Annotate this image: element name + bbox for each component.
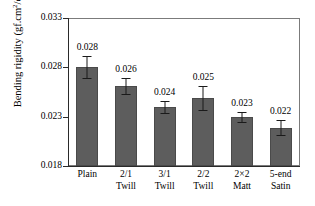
error-bar-line [203, 86, 204, 110]
bar-series: 0.0280.0260.0240.0250.0230.022 [68, 18, 300, 166]
bar-group: 0.025 [184, 18, 223, 166]
x-tick-label-line1: Plain [68, 169, 107, 181]
x-tick-label: 5-endSatin [261, 169, 300, 192]
x-tick-label-line2: Satin [261, 181, 300, 193]
x-tick-label: 3/1Twill [145, 169, 184, 192]
bar [115, 86, 137, 166]
x-tick-label-line2: Matt [223, 181, 262, 193]
error-bar-cap-top [83, 56, 92, 57]
y-tick-label: 0.018 [22, 161, 62, 171]
bar [76, 67, 98, 166]
bar-group: 0.024 [145, 18, 184, 166]
error-bar-line [164, 101, 165, 113]
bar-group: 0.026 [107, 18, 146, 166]
error-bar-cap-bottom [121, 94, 130, 95]
error-bar-line [125, 78, 126, 94]
x-tick-label: 2×2Matt [223, 169, 262, 192]
error-bar-cap-top [160, 101, 169, 102]
x-tick-label-line1: 2/1 [107, 169, 146, 181]
error-bar-line [87, 56, 88, 78]
bar-chart: Bending rigidity (gf.cm2/cm) 0.0180.0230… [0, 0, 315, 206]
y-tick-label: 0.023 [22, 112, 62, 122]
error-bar-cap-top [199, 86, 208, 87]
error-bar-line [280, 120, 281, 136]
bar-value-label: 0.023 [231, 98, 252, 108]
bar-group: 0.023 [223, 18, 262, 166]
x-tick-label: 2/2Twill [184, 169, 223, 192]
y-axis-title-suffix: /cm) [12, 0, 23, 4]
error-bar-cap-bottom [199, 110, 208, 111]
x-tick-label-line1: 2/2 [184, 169, 223, 181]
x-axis-line [68, 166, 300, 167]
bar-value-label: 0.025 [193, 72, 214, 82]
x-tick-label-line1: 3/1 [145, 169, 184, 181]
bar-group: 0.022 [261, 18, 300, 166]
bar-value-label: 0.028 [77, 42, 98, 52]
error-bar-cap-bottom [237, 122, 246, 123]
error-bar-cap-bottom [160, 113, 169, 114]
y-tick-label: 0.033 [22, 13, 62, 23]
error-bar-cap-bottom [276, 135, 285, 136]
x-tick-label-line1: 2×2 [223, 169, 262, 181]
y-axis-title-prefix: Bending rigidity (gf.cm [12, 8, 23, 107]
x-tick-label-line2: Twill [107, 181, 146, 193]
error-bar-cap-bottom [83, 78, 92, 79]
x-tick-label-line2: Twill [145, 181, 184, 193]
bar [231, 117, 253, 166]
y-axis-title-exponent: 2 [11, 4, 19, 8]
bar-group: 0.028 [68, 18, 107, 166]
error-bar-line [241, 112, 242, 122]
error-bar-cap-top [121, 78, 130, 79]
bar-value-label: 0.026 [115, 64, 136, 74]
y-tick-label: 0.028 [22, 62, 62, 72]
error-bar-cap-top [237, 112, 246, 113]
y-tick-mark [63, 166, 68, 167]
x-tick-label-line1: 5-end [261, 169, 300, 181]
bar [154, 107, 176, 166]
bar-value-label: 0.024 [154, 87, 175, 97]
x-tick-label-line2: Twill [184, 181, 223, 193]
x-tick-label: Plain [68, 169, 107, 181]
error-bar-cap-top [276, 120, 285, 121]
x-tick-label: 2/1Twill [107, 169, 146, 192]
x-axis-labels: Plain2/1Twill3/1Twill2/2Twill2×2Matt5-en… [68, 169, 300, 203]
bar-value-label: 0.022 [270, 106, 291, 116]
